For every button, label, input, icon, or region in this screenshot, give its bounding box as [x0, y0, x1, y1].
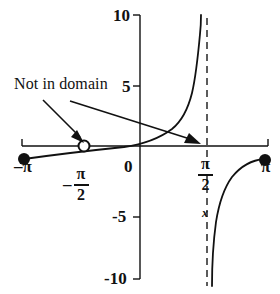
- annotation-arrow-to-open-circle-head: [71, 130, 84, 143]
- plot-canvas: [0, 0, 280, 294]
- x-tick-label-minus-pi-over-2: – π 2: [63, 166, 89, 204]
- annotation-arrow-to-asymptote-shaft: [70, 101, 190, 139]
- x-tick-label-pi-over-2: π 2: [198, 156, 213, 194]
- y-tick-label-minus-10: -10: [104, 270, 127, 287]
- fraction-numerator: π: [77, 166, 86, 183]
- tangent-curve-right-branch: [212, 159, 264, 286]
- annotation-not-in-domain: Not in domain: [14, 76, 108, 92]
- y-tick-label-minus-5: -5: [112, 208, 126, 225]
- fraction-denominator: 2: [77, 187, 85, 204]
- x-tick-label-minus-pi: –π: [14, 158, 32, 175]
- x-tick-label-pi: π: [261, 158, 270, 175]
- fraction-stack: π 2: [198, 156, 213, 194]
- annotation-arrow-to-open-circle-shaft: [43, 100, 80, 137]
- y-tick-label-10: 10: [113, 7, 130, 24]
- open-circle-not-in-domain: [79, 141, 90, 152]
- annotation-arrow-to-asymptote-head: [184, 133, 201, 144]
- y-tick-label-0: 0: [124, 158, 133, 175]
- fraction-numerator: π: [201, 156, 210, 173]
- tangent-function-figure: 10 5 0 -5 -10 –π – π 2 π 2 x π Not in do…: [0, 0, 280, 294]
- y-tick-label-5: 5: [122, 78, 131, 95]
- fraction-denominator: 2: [202, 177, 210, 194]
- fraction-stack: π 2: [74, 166, 89, 204]
- x-axis-variable-label: x: [202, 207, 208, 219]
- minus-sign: –: [63, 175, 72, 195]
